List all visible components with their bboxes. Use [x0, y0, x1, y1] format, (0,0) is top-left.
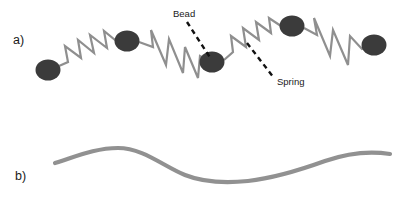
bead-3 — [200, 52, 225, 73]
panel-b-group: b) — [15, 148, 390, 183]
panel-a-group: Bead Spring a) — [13, 8, 387, 87]
panel-b-label: b) — [15, 169, 26, 183]
bead-1 — [36, 60, 61, 81]
spring-callout-label: Spring — [277, 76, 304, 87]
wave-curve — [55, 148, 390, 182]
figure-canvas: Bead Spring a) b) — [0, 0, 411, 198]
panel-a-label: a) — [13, 33, 24, 47]
bead-callout-label: Bead — [173, 8, 195, 19]
spring-2 — [139, 30, 209, 78]
figure-root: Bead Spring a) b) — [0, 0, 411, 198]
bead-4 — [280, 16, 305, 37]
bead-2 — [115, 31, 140, 52]
bead-callout-line — [187, 22, 211, 59]
spring-callout-line — [247, 43, 274, 78]
bead-5 — [362, 35, 387, 56]
